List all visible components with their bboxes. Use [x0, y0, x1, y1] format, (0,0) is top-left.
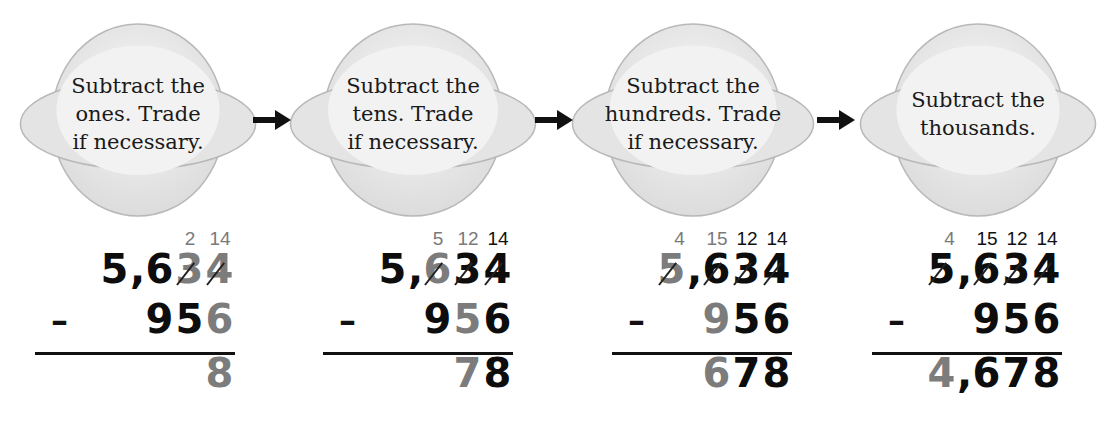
digit: , [130, 246, 145, 292]
subtrahend: 956 [702, 296, 792, 342]
subtrahend: 956 [423, 296, 513, 342]
digit: 8 [762, 350, 792, 396]
minus-sign: – [888, 300, 905, 340]
difference: 8 [205, 350, 235, 396]
digit: 6 [1032, 296, 1062, 342]
step-bubble: Subtract the ones. Trade if necessary. [18, 22, 258, 218]
digit: 5 [732, 296, 762, 342]
struck-digit: 5 [657, 246, 687, 292]
step-instruction: Subtract the tens. Trade if necessary. [288, 16, 538, 212]
digit: 6 [145, 246, 175, 292]
digit: 7 [732, 350, 762, 396]
right-arrow-icon [253, 110, 291, 134]
step-bubble: Subtract the thousands. [858, 22, 1098, 218]
digit: 6 [205, 296, 235, 342]
digit: 9 [972, 296, 1002, 342]
step-bubble: Subtract the hundreds. Trade if necessar… [570, 22, 816, 218]
subtraction-problem: 41512145,634–956678 [612, 228, 792, 418]
step-instruction: Subtract the hundreds. Trade if necessar… [570, 16, 816, 212]
digit: 6 [762, 296, 792, 342]
digit: , [957, 350, 972, 396]
subtrahend: 956 [145, 296, 235, 342]
subtraction-problem: 512145,634–95678 [323, 228, 513, 418]
digit: 6 [702, 350, 732, 396]
step-bubble: Subtract the tens. Trade if necessary. [288, 22, 538, 218]
instruction-text: Subtract the thousands. [911, 86, 1045, 142]
struck-digit: 6 [702, 246, 732, 292]
minus-sign: – [51, 300, 68, 340]
struck-digit: 5 [927, 246, 957, 292]
minus-sign: – [628, 300, 645, 340]
struck-digit: 3 [453, 246, 483, 292]
minuend: 5,634 [378, 246, 513, 292]
struck-digit: 4 [1032, 246, 1062, 292]
digit: 9 [702, 296, 732, 342]
right-arrow-icon [535, 110, 573, 134]
digit: 7 [453, 350, 483, 396]
digit: 5 [378, 246, 408, 292]
minus-sign: – [339, 300, 356, 340]
struck-digit: 3 [1002, 246, 1032, 292]
struck-digit: 6 [423, 246, 453, 292]
digit: 9 [145, 296, 175, 342]
subtrahend: 956 [972, 296, 1062, 342]
minuend: 5,634 [100, 246, 235, 292]
digit: , [408, 246, 423, 292]
right-arrow-icon [817, 110, 855, 134]
digit: 5 [1002, 296, 1032, 342]
minuend: 5,634 [927, 246, 1062, 292]
difference: 78 [453, 350, 513, 396]
digit: 8 [1032, 350, 1062, 396]
difference: 678 [702, 350, 792, 396]
struck-digit: 3 [732, 246, 762, 292]
digit: 5 [453, 296, 483, 342]
struck-digit: 3 [175, 246, 205, 292]
digit: 6 [483, 296, 513, 342]
struck-digit: 6 [972, 246, 1002, 292]
struck-digit: 4 [483, 246, 513, 292]
instruction-text: Subtract the ones. Trade if necessary. [71, 72, 205, 156]
subtraction-problem: 41512145,634–9564,678 [872, 228, 1062, 418]
digit: , [687, 246, 702, 292]
digit: 5 [175, 296, 205, 342]
step-instruction: Subtract the thousands. [858, 16, 1098, 212]
digit: 6 [972, 350, 1002, 396]
digit: 4 [927, 350, 957, 396]
difference: 4,678 [927, 350, 1062, 396]
struck-digit: 4 [762, 246, 792, 292]
digit: 9 [423, 296, 453, 342]
subtraction-problem: 2145,634–9568 [35, 228, 235, 418]
minuend: 5,634 [657, 246, 792, 292]
digit: 8 [205, 350, 235, 396]
digit: 8 [483, 350, 513, 396]
digit: 7 [1002, 350, 1032, 396]
instruction-text: Subtract the hundreds. Trade if necessar… [605, 72, 782, 156]
digit: , [957, 246, 972, 292]
instruction-text: Subtract the tens. Trade if necessary. [346, 72, 480, 156]
step-instruction: Subtract the ones. Trade if necessary. [18, 16, 258, 212]
digit: 5 [100, 246, 130, 292]
struck-digit: 4 [205, 246, 235, 292]
